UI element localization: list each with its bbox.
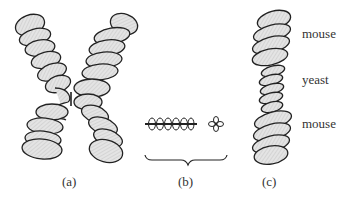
segment-label-yeast: yeast xyxy=(302,72,329,88)
panel-label-c: (c) xyxy=(262,174,276,190)
segment-label-mouse-top: mouse xyxy=(302,26,336,42)
chromosome-figure: (a) (b) (c) mouse yeast mouse xyxy=(0,0,348,199)
segment-label-mouse-bottom: mouse xyxy=(302,116,336,132)
panel-label-b: (b) xyxy=(178,174,193,190)
rosette-icon xyxy=(209,117,224,132)
panel-label-a: (a) xyxy=(62,174,76,190)
left-chromatid xyxy=(12,10,72,160)
brace xyxy=(145,155,227,165)
hybrid-chromosome xyxy=(251,7,294,167)
figure-drawing xyxy=(0,0,348,199)
coiled-fiber xyxy=(145,118,197,130)
right-chromatid xyxy=(74,10,141,166)
